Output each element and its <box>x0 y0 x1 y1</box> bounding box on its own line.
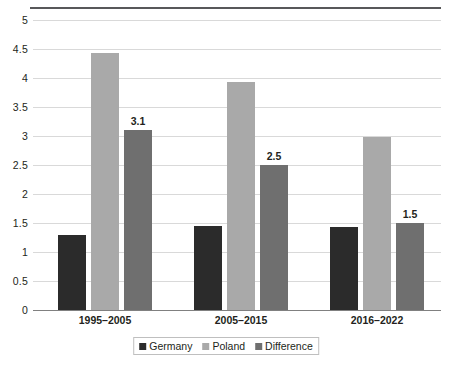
chart-legend: GermanyPolandDifference <box>133 337 319 355</box>
y-axis-tick-label: 2 <box>22 188 28 200</box>
y-axis-tick-label: 2.5 <box>13 159 28 171</box>
y-axis-tick-labels: 00.511.522.533.544.55 <box>0 20 28 310</box>
bar-difference-2 <box>260 165 288 310</box>
bars-layer: 3.12.51.5 <box>33 20 441 310</box>
y-axis-tick-label: 0.5 <box>13 275 28 287</box>
bar-poland-3 <box>363 137 391 310</box>
legend-item-poland[interactable]: Poland <box>202 340 245 352</box>
legend-label: Poland <box>212 340 245 352</box>
x-axis-category-labels: 1995–20052005–20152016–2022 <box>33 314 441 332</box>
top-divider-rule <box>30 7 441 9</box>
legend-item-germany[interactable]: Germany <box>139 340 192 352</box>
y-axis-tick-label: 0 <box>22 304 28 316</box>
bar-poland-1 <box>91 53 119 310</box>
plot-area: 3.12.51.5 <box>33 20 441 310</box>
x-axis-category-label: 1995–2005 <box>79 314 132 326</box>
y-axis-tick-label: 3.5 <box>13 101 28 113</box>
bar-value-label: 1.5 <box>403 208 418 220</box>
bar-difference-3 <box>396 223 424 310</box>
bar-chart: 00.511.522.533.544.55 3.12.51.5 1995–200… <box>0 0 452 366</box>
legend-swatch-icon <box>202 343 209 350</box>
x-axis-line <box>33 310 441 311</box>
x-axis-category-label: 2005–2015 <box>215 314 268 326</box>
legend-item-difference[interactable]: Difference <box>255 340 313 352</box>
bar-value-label: 2.5 <box>267 150 282 162</box>
bar-germany-2 <box>194 226 222 310</box>
legend-swatch-icon <box>139 343 146 350</box>
legend-label: Difference <box>265 340 313 352</box>
y-axis-tick-label: 5 <box>22 14 28 26</box>
x-axis-category-label: 2016–2022 <box>351 314 404 326</box>
y-axis-tick-label: 1 <box>22 246 28 258</box>
bar-value-label: 3.1 <box>131 115 146 127</box>
bar-germany-3 <box>330 227 358 310</box>
y-axis-tick-label: 1.5 <box>13 217 28 229</box>
legend-swatch-icon <box>255 343 262 350</box>
bar-poland-2 <box>227 82 255 310</box>
bar-germany-1 <box>58 235 86 310</box>
legend-label: Germany <box>149 340 192 352</box>
y-axis-tick-label: 4 <box>22 72 28 84</box>
y-axis-tick-label: 4.5 <box>13 43 28 55</box>
bar-difference-1 <box>124 130 152 310</box>
y-axis-tick-label: 3 <box>22 130 28 142</box>
